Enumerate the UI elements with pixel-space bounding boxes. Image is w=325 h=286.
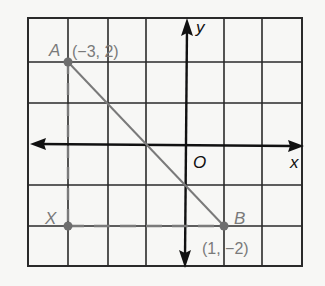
x-axis-label: x	[289, 153, 299, 172]
point-a-coords: (−3, 2)	[72, 43, 119, 60]
point-b	[220, 222, 229, 231]
point-x	[64, 222, 73, 231]
point-a-label: A	[48, 41, 60, 60]
point-b-label: B	[234, 209, 245, 228]
point-x-label: X	[44, 209, 57, 228]
y-axis-label: y	[195, 18, 206, 37]
x-axis-left-arrow-icon	[30, 138, 46, 150]
point-b-coords: (1, −2)	[202, 240, 249, 257]
coordinate-plane-diagram: y x O A (−3, 2) B (1, −2) X	[0, 0, 325, 286]
origin-label: O	[193, 153, 206, 172]
x-axis	[38, 144, 292, 146]
